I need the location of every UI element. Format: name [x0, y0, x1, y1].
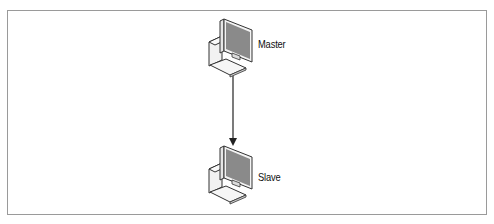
- master-label: Master: [258, 38, 286, 50]
- desktop-computer-icon: [206, 143, 260, 205]
- desktop-computer-icon: [206, 16, 260, 78]
- master-node: Master: [206, 16, 306, 78]
- slave-node: Slave: [206, 143, 306, 205]
- slave-label: Slave: [258, 171, 281, 183]
